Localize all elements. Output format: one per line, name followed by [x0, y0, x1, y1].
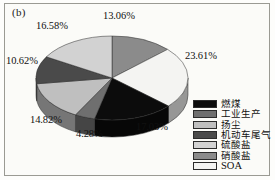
pie-value-label: 4.28% [76, 128, 103, 139]
pie-value-label: 17.03% [136, 121, 168, 132]
pie-value-label: 23.61% [185, 50, 217, 61]
legend-swatch [193, 110, 217, 118]
pie-value-label: 13.06% [103, 10, 135, 21]
legend-label: SOA [221, 161, 242, 171]
legend-swatch [193, 100, 217, 108]
legend-label: 工业生产 [221, 109, 261, 119]
legend-swatch [193, 141, 217, 149]
legend-item: SOA [193, 161, 269, 171]
pie-value-label: 10.62% [6, 55, 38, 66]
legend-swatch [193, 131, 217, 139]
legend-swatch [193, 152, 217, 160]
legend-item: 硫酸盐 [193, 140, 269, 150]
legend-swatch [193, 162, 217, 170]
chart-legend: 燃煤工业生产扬尘机动车尾气硫酸盐硝酸盐SOA [193, 99, 269, 171]
figure-panel: (b) 13.06%23.61%17.03%4.28%14.82%10.62%1… [0, 0, 275, 180]
pie-value-label: 16.58% [36, 20, 68, 31]
pie-value-label: 14.82% [30, 114, 62, 125]
legend-swatch [193, 121, 217, 129]
panel-label: (b) [12, 6, 26, 18]
pie-slices [36, 36, 188, 120]
legend-label: 硫酸盐 [221, 140, 251, 150]
